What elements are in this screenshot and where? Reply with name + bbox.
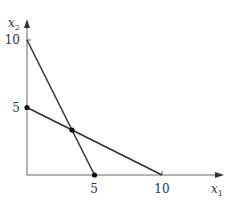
line-1 xyxy=(27,40,95,175)
x-tick-5: 5 xyxy=(90,182,98,196)
x-axis-label-sub: 1 xyxy=(218,189,223,198)
point-intersection xyxy=(69,127,74,132)
y-axis-label-sub: 2 xyxy=(15,23,20,32)
x-tick-10: 10 xyxy=(154,182,169,196)
point-0-5 xyxy=(24,105,29,110)
x-axis-label: x1 xyxy=(211,182,223,198)
line-2 xyxy=(27,108,162,176)
y-axis-arrow-icon xyxy=(24,19,30,28)
y-tick-5: 5 xyxy=(12,101,20,115)
point-5-0 xyxy=(92,172,97,177)
y-axis-label: x2 xyxy=(8,16,20,32)
chart: 5 10 5 10 x1 x2 xyxy=(0,0,235,204)
y-tick-10: 10 xyxy=(5,33,20,47)
x-axis-arrow-icon xyxy=(215,172,224,178)
